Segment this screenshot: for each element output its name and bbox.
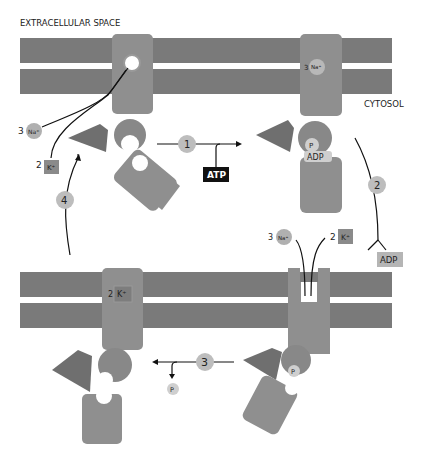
svg-text:Na⁺: Na⁺: [311, 64, 321, 70]
svg-text:ADP: ADP: [380, 255, 398, 265]
svg-text:3: 3: [268, 233, 273, 242]
adp-released: ADP: [377, 252, 403, 267]
svg-text:2: 2: [330, 232, 336, 242]
svg-text:P: P: [291, 368, 295, 376]
svg-text:K⁺: K⁺: [117, 290, 126, 299]
k-ion-right: 2 K⁺: [330, 229, 353, 244]
step-4: 4: [56, 154, 81, 255]
step-1: 1: [157, 135, 242, 167]
svg-text:P: P: [170, 386, 174, 394]
svg-text:3: 3: [18, 126, 24, 136]
membrane-bottom: [20, 272, 392, 328]
extracellular-label: EXTRACELLULAR SPACE: [20, 18, 120, 28]
na-ion-right: 3 Na⁺: [268, 229, 292, 245]
k-ion-left: 2 K⁺: [36, 160, 59, 174]
cytosol-label: CYTOSOL: [364, 99, 404, 109]
svg-text:P: P: [309, 142, 313, 150]
svg-text:Na⁺: Na⁺: [278, 235, 288, 241]
svg-text:K⁺: K⁺: [47, 164, 56, 172]
na-ion-left: 3 Na⁺: [18, 123, 42, 139]
svg-text:K⁺: K⁺: [341, 233, 350, 242]
svg-text:3: 3: [201, 356, 208, 369]
svg-text:2: 2: [108, 290, 113, 299]
svg-text:ATP: ATP: [207, 170, 226, 180]
svg-text:2: 2: [36, 160, 42, 170]
svg-text:Na⁺: Na⁺: [28, 128, 39, 135]
svg-text:2: 2: [374, 180, 380, 191]
step-3: 3 P: [152, 353, 234, 395]
pump-diagram: EXTRACELLULAR SPACE CYTOSOL 3 Na⁺ 2 K⁺: [0, 0, 426, 473]
atp-label: ATP: [203, 167, 229, 182]
svg-text:3: 3: [304, 64, 308, 72]
svg-text:ADP: ADP: [307, 153, 324, 162]
svg-text:1: 1: [184, 139, 190, 150]
svg-text:4: 4: [61, 195, 67, 206]
step-2: 2: [355, 138, 386, 250]
